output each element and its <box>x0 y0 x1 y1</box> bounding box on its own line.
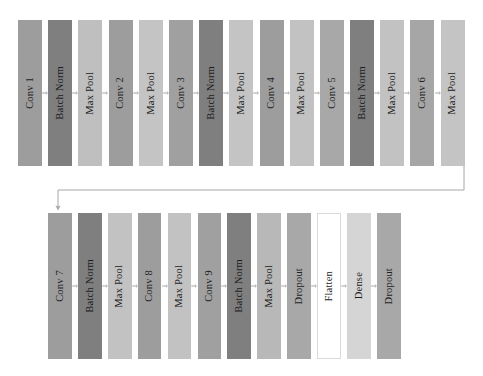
layer-row-top: Conv 1Batch NormMax PoolConv 2Max PoolCo… <box>18 20 465 166</box>
layer-block-max_pool[interactable]: Max Pool <box>229 20 253 166</box>
layer-block-fill: Batch Norm <box>227 213 251 359</box>
layer-block-batch_norm[interactable]: Batch Norm <box>48 20 72 166</box>
layer-block-label: Flatten <box>324 271 335 302</box>
layer-block-fill: Max Pool <box>139 20 163 166</box>
layer-block-batch_norm[interactable]: Batch Norm <box>78 213 102 359</box>
layer-row-bottom: Conv 7Batch NormMax PoolConv 8Max PoolCo… <box>48 213 401 359</box>
layer-block-label: Conv 5 <box>327 77 338 109</box>
layer-block-label: Conv 9 <box>204 270 215 302</box>
layer-block-conv[interactable]: Conv 7 <box>48 213 72 359</box>
layer-block-label: Max Pool <box>146 72 157 115</box>
layer-block-batch_norm[interactable]: Batch Norm <box>199 20 223 166</box>
layer-block-fill: Max Pool <box>380 20 404 166</box>
layer-block-batch_norm[interactable]: Batch Norm <box>227 213 251 359</box>
layer-block-fill: Conv 4 <box>260 20 284 166</box>
layer-block-fill: Conv 7 <box>48 213 72 359</box>
layer-block-fill: Dropout <box>287 213 311 359</box>
layer-block-fill: Max Pool <box>108 213 132 359</box>
layer-block-max_pool[interactable]: Max Pool <box>380 20 404 166</box>
layer-block-label: Conv 1 <box>25 77 36 109</box>
layer-block-fill: Max Pool <box>78 20 102 166</box>
layer-block-fill: Conv 3 <box>169 20 193 166</box>
architecture-diagram: Conv 1Batch NormMax PoolConv 2Max PoolCo… <box>0 0 483 376</box>
layer-block-fill: Conv 8 <box>138 213 162 359</box>
layer-block-conv[interactable]: Conv 1 <box>18 20 42 166</box>
layer-block-label: Max Pool <box>236 72 247 115</box>
layer-block-fill: Dropout <box>377 213 401 359</box>
layer-block-label: Conv 8 <box>144 270 155 302</box>
layer-block-conv[interactable]: Conv 4 <box>260 20 284 166</box>
layer-block-label: Max Pool <box>174 265 185 308</box>
layer-block-label: Max Pool <box>114 265 125 308</box>
layer-block-conv[interactable]: Conv 9 <box>198 213 222 359</box>
layer-block-max_pool[interactable]: Max Pool <box>257 213 281 359</box>
layer-block-label: Conv 2 <box>115 77 126 109</box>
layer-block-label: Max Pool <box>264 265 275 308</box>
layer-block-fill: Max Pool <box>168 213 192 359</box>
layer-block-conv[interactable]: Conv 2 <box>109 20 133 166</box>
connector-path <box>58 166 464 208</box>
layer-block-label: Conv 3 <box>176 77 187 109</box>
layer-block-fill: Conv 1 <box>18 20 42 166</box>
layer-block-dropout[interactable]: Dropout <box>377 213 401 359</box>
layer-block-conv[interactable]: Conv 8 <box>138 213 162 359</box>
layer-block-label: Dropout <box>294 268 305 304</box>
layer-block-label: Conv 6 <box>417 77 428 109</box>
layer-block-conv[interactable]: Conv 3 <box>169 20 193 166</box>
layer-block-flatten[interactable]: Flatten <box>317 213 341 359</box>
layer-block-label: Dense <box>354 272 365 299</box>
layer-block-fill: Conv 2 <box>109 20 133 166</box>
layer-block-fill: Max Pool <box>441 20 465 166</box>
layer-block-batch_norm[interactable]: Batch Norm <box>350 20 374 166</box>
layer-block-label: Max Pool <box>447 72 458 115</box>
layer-block-label: Conv 4 <box>266 77 277 109</box>
layer-block-fill: Conv 5 <box>320 20 344 166</box>
layer-block-label: Max Pool <box>85 72 96 115</box>
layer-block-fill: Conv 6 <box>410 20 434 166</box>
layer-block-fill: Max Pool <box>229 20 253 166</box>
layer-block-label: Batch Norm <box>234 259 245 313</box>
layer-block-max_pool[interactable]: Max Pool <box>290 20 314 166</box>
layer-block-label: Batch Norm <box>55 66 66 120</box>
layer-block-max_pool[interactable]: Max Pool <box>441 20 465 166</box>
layer-block-fill: Batch Norm <box>199 20 223 166</box>
layer-block-max_pool[interactable]: Max Pool <box>168 213 192 359</box>
layer-block-fill: Max Pool <box>257 213 281 359</box>
layer-block-max_pool[interactable]: Max Pool <box>78 20 102 166</box>
layer-block-fill: Flatten <box>317 213 341 359</box>
layer-block-label: Batch Norm <box>85 259 96 313</box>
layer-block-fill: Batch Norm <box>350 20 374 166</box>
layer-block-label: Dropout <box>384 268 395 304</box>
layer-block-label: Max Pool <box>296 72 307 115</box>
layer-block-label: Conv 7 <box>55 270 66 302</box>
layer-block-label: Batch Norm <box>206 66 217 120</box>
layer-block-conv[interactable]: Conv 6 <box>410 20 434 166</box>
layer-block-fill: Batch Norm <box>48 20 72 166</box>
layer-block-fill: Dense <box>347 213 371 359</box>
layer-block-fill: Max Pool <box>290 20 314 166</box>
layer-block-dense[interactable]: Dense <box>347 213 371 359</box>
layer-block-conv[interactable]: Conv 5 <box>320 20 344 166</box>
layer-block-fill: Batch Norm <box>78 213 102 359</box>
layer-block-max_pool[interactable]: Max Pool <box>139 20 163 166</box>
layer-block-max_pool[interactable]: Max Pool <box>108 213 132 359</box>
layer-block-label: Batch Norm <box>357 66 368 120</box>
layer-block-fill: Conv 9 <box>198 213 222 359</box>
layer-block-dropout[interactable]: Dropout <box>287 213 311 359</box>
layer-block-label: Max Pool <box>387 72 398 115</box>
